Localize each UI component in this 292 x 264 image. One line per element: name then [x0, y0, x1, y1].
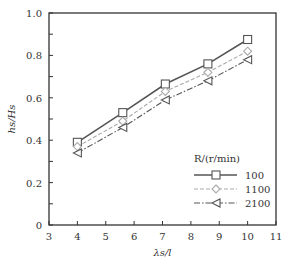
square-marker: [204, 60, 212, 68]
data-series: [73, 36, 251, 157]
x-tick-label: 10: [241, 231, 254, 242]
triangle-marker: [161, 96, 169, 104]
legend-label: 1100: [245, 184, 270, 195]
x-tick-label: 8: [188, 231, 194, 242]
x-tick-label: 6: [131, 231, 137, 242]
y-tick-label: 0.4: [26, 135, 42, 146]
y-tick-label: 1.0: [26, 8, 42, 19]
plot-axes: 3456789101100.20.40.60.81.0λs/lhs/Hs: [6, 8, 282, 258]
triangle-marker: [244, 56, 252, 64]
x-tick-label: 3: [46, 231, 52, 242]
legend-title: R/(r/min): [194, 153, 240, 164]
square-marker: [119, 109, 127, 117]
diamond-marker: [244, 47, 252, 55]
y-axis-label: hs/Hs: [6, 105, 17, 134]
triangle-marker: [212, 199, 220, 207]
legend-label: 2100: [245, 198, 270, 209]
diamond-marker: [161, 87, 169, 95]
x-tick-label: 9: [216, 231, 222, 242]
x-tick-label: 7: [159, 231, 165, 242]
x-tick-label: 4: [74, 231, 80, 242]
y-tick-label: 0.8: [26, 50, 42, 61]
square-marker: [244, 36, 252, 44]
legend: R/(r/min)10011002100: [194, 153, 270, 209]
y-tick-label: 0: [36, 220, 42, 231]
diamond-marker: [212, 185, 220, 193]
diamond-marker: [204, 68, 212, 76]
line-chart: 3456789101100.20.40.60.81.0λs/lhs/Hs R/(…: [0, 0, 292, 264]
x-axis-label: λs/l: [152, 247, 171, 258]
x-tick-label: 11: [270, 231, 283, 242]
square-marker: [212, 171, 220, 179]
series-2100: [73, 56, 251, 157]
triangle-marker: [204, 77, 212, 85]
y-tick-label: 0.6: [26, 93, 42, 104]
x-tick-label: 5: [103, 231, 109, 242]
y-tick-label: 0.2: [26, 178, 42, 189]
legend-label: 100: [245, 170, 264, 181]
plot-frame: [49, 13, 276, 225]
